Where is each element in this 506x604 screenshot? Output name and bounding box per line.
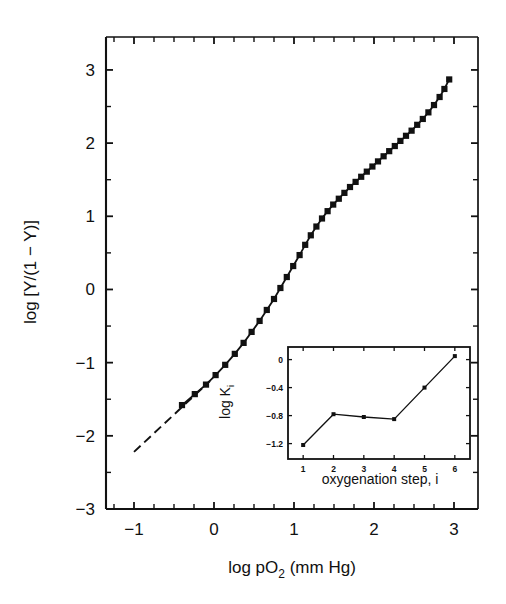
inset-data-point-marker bbox=[453, 354, 457, 358]
data-point-marker bbox=[325, 208, 331, 214]
data-point-marker bbox=[241, 340, 247, 346]
inset-chart: 1234560−0.4−0.8−1.2 bbox=[266, 347, 470, 474]
data-point-marker bbox=[313, 223, 319, 229]
data-point-marker bbox=[271, 296, 277, 302]
x-tick-label: 3 bbox=[449, 520, 458, 539]
inset-x-tick-label: 6 bbox=[452, 464, 457, 474]
data-point-marker bbox=[319, 215, 325, 221]
data-point-marker bbox=[358, 174, 364, 180]
inset-data-point-marker bbox=[301, 443, 305, 447]
y-tick-label: −1 bbox=[76, 354, 95, 373]
inset-x-axis-title: oxygenation step, i bbox=[322, 471, 439, 487]
inset-y-tick-label: −0.4 bbox=[266, 383, 283, 393]
data-point-marker bbox=[277, 285, 283, 291]
data-point-marker bbox=[392, 143, 398, 149]
x-tick-label: 0 bbox=[209, 520, 218, 539]
data-point-marker bbox=[284, 274, 290, 280]
y-tick-label: 0 bbox=[86, 280, 95, 299]
x-tick-label: 1 bbox=[289, 520, 298, 539]
data-point-marker bbox=[249, 329, 255, 335]
data-point-marker bbox=[257, 318, 263, 324]
y-tick-label: −3 bbox=[76, 500, 95, 519]
data-point-marker bbox=[420, 116, 426, 122]
chart-canvas: −10123−3−2−10123 1234560−0.4−0.8−1.2 log… bbox=[0, 0, 506, 604]
data-point-marker bbox=[353, 179, 359, 185]
hill-plot-figure: −10123−3−2−10123 1234560−0.4−0.8−1.2 log… bbox=[0, 0, 506, 604]
y-tick-label: 1 bbox=[86, 207, 95, 226]
inset-x-tick-label: 1 bbox=[301, 464, 306, 474]
y-tick-label: −2 bbox=[76, 427, 95, 446]
data-point-marker bbox=[222, 362, 228, 368]
y-axis-title: log [Y/(1 − Y)] bbox=[21, 220, 40, 324]
data-point-marker bbox=[414, 122, 420, 128]
data-point-marker bbox=[409, 128, 415, 134]
x-tick-label: −1 bbox=[124, 520, 143, 539]
inset-data-point-marker bbox=[392, 417, 396, 421]
data-point-marker bbox=[308, 232, 314, 238]
data-point-marker bbox=[364, 169, 370, 175]
data-point-marker bbox=[446, 76, 452, 82]
data-point-marker bbox=[441, 86, 447, 92]
data-point-marker bbox=[302, 242, 308, 248]
data-point-marker bbox=[403, 133, 409, 139]
data-point-marker bbox=[213, 372, 219, 378]
x-tick-label: 2 bbox=[369, 520, 378, 539]
inset-y-tick-label: −1.2 bbox=[266, 439, 283, 449]
inset-y-tick-label: 0 bbox=[278, 355, 283, 365]
data-point-marker bbox=[341, 190, 347, 196]
data-point-marker bbox=[232, 351, 238, 357]
y-tick-label: 2 bbox=[86, 134, 95, 153]
data-point-marker bbox=[437, 94, 443, 100]
data-point-marker bbox=[264, 307, 270, 313]
data-point-marker bbox=[297, 252, 303, 258]
data-point-marker bbox=[381, 153, 387, 159]
inset-axes bbox=[288, 347, 470, 459]
data-point-marker bbox=[431, 102, 437, 108]
data-point-marker bbox=[336, 196, 342, 202]
data-point-marker bbox=[375, 158, 381, 164]
inset-data-point-marker bbox=[332, 412, 336, 416]
data-point-marker bbox=[330, 201, 336, 207]
inset-y-tick-label: −0.8 bbox=[266, 411, 283, 421]
data-point-marker bbox=[179, 402, 185, 408]
data-point-marker bbox=[347, 184, 353, 190]
inset-data-point-marker bbox=[362, 415, 366, 419]
data-point-marker bbox=[386, 148, 392, 154]
data-point-marker bbox=[425, 109, 431, 115]
data-point-marker bbox=[290, 263, 296, 269]
data-point-marker bbox=[369, 163, 375, 169]
y-tick-label: 3 bbox=[86, 61, 95, 80]
inset-data-point-marker bbox=[423, 386, 427, 390]
data-point-marker bbox=[397, 138, 403, 144]
